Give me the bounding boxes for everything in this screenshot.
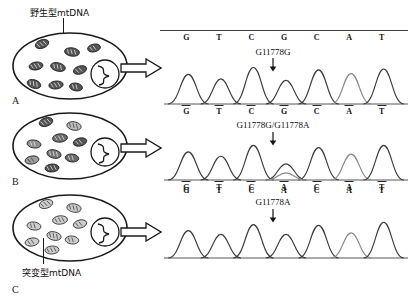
panel-a-top-rule — [160, 30, 408, 31]
trace-peak-t-6 — [364, 222, 404, 258]
panel-a-annotation: G11778G — [255, 47, 290, 57]
panel-a-top-sequence: GTCGCAT — [160, 33, 410, 45]
trace-peak-c-4 — [298, 70, 338, 104]
base-underbar — [280, 105, 289, 106]
base-call-c-4: C — [314, 33, 320, 42]
base-letter: G — [281, 33, 287, 42]
cell-c-membrane — [10, 192, 130, 264]
trace-secondary-peak-a-3 — [266, 173, 306, 180]
base-call-g-0: G — [183, 186, 189, 195]
base-call-t-1: T — [216, 33, 221, 42]
base-letter: C — [314, 33, 320, 42]
flow-arrow-c-icon — [120, 222, 162, 242]
wild-type-mtdna-label-text: 野生型mtDNA — [30, 8, 89, 18]
cell-label-b: B — [12, 176, 19, 187]
trace-peak-g-0 — [168, 152, 208, 180]
trace-peak-t-1 — [201, 156, 241, 180]
mtdna-heteroplasmy-figure: 野生型mtDNA — [0, 0, 413, 305]
base-call-t-6: T — [379, 186, 384, 195]
cell-label-c: C — [12, 284, 19, 295]
base-underbar — [345, 181, 354, 182]
base-letter: G — [183, 107, 189, 116]
base-call-t-1: T — [216, 186, 221, 195]
base-call-g-0: G — [183, 33, 189, 42]
base-call-t-6: T — [377, 105, 386, 116]
nucleus-b — [91, 138, 119, 166]
base-call-c-2: C — [247, 105, 256, 116]
nucleus-c — [91, 218, 119, 246]
panel-a-chromatogram — [162, 62, 410, 106]
trace-peak-c-4 — [298, 148, 338, 180]
base-underbar — [182, 105, 191, 106]
mutant-type-leader-line — [42, 238, 45, 264]
panel-c-chromatogram — [162, 216, 410, 260]
base-letter: C — [314, 107, 320, 116]
base-letter: T — [216, 33, 221, 42]
base-letter: T — [216, 186, 221, 195]
base-letter: C — [249, 186, 255, 195]
trace-peak-t-6 — [364, 69, 404, 104]
trace-peak-g-3 — [266, 80, 306, 104]
base-letter: A — [346, 186, 352, 195]
base-call-g-0: G — [182, 105, 191, 116]
trace-peak-a-5 — [331, 233, 371, 258]
trace-peak-g-0 — [168, 231, 208, 258]
trace-peak-a-5 — [331, 74, 371, 104]
base-underbar — [377, 181, 386, 182]
cell-b-diagram — [10, 110, 130, 182]
mutant-type-mtdna-label: 突变型mtDNA — [22, 266, 81, 279]
mutant-type-mtdna-label-text: 突变型mtDNA — [22, 268, 81, 278]
base-call-c-2: C — [249, 33, 255, 42]
base-call-g-3: G — [280, 105, 289, 116]
base-call-t-6: T — [379, 33, 384, 42]
wild-type-mtdna-label: 野生型mtDNA — [30, 6, 89, 19]
nucleus-a — [91, 60, 119, 88]
panel-c-top-sequence: GTCACAT — [160, 186, 410, 198]
trace-peak-c-4 — [298, 225, 338, 258]
base-underbar — [280, 181, 289, 182]
trace-peak-c-2 — [233, 225, 273, 258]
cell-c-diagram — [10, 192, 130, 264]
trace-peak-t-6 — [364, 145, 404, 180]
cell-a-membrane — [10, 30, 130, 102]
base-letter: A — [346, 33, 352, 42]
base-call-c-2: C — [249, 186, 255, 195]
panel-a-bottom-sequence: GTCGCAT — [160, 105, 410, 117]
base-underbar — [247, 181, 256, 182]
base-underbar — [247, 105, 256, 106]
base-letter: C — [249, 33, 255, 42]
base-underbar — [312, 105, 321, 106]
base-call-a-5: A — [346, 33, 352, 42]
base-letter: G — [281, 107, 287, 116]
panel-b-chromatogram — [162, 140, 410, 182]
base-call-g-3: G — [281, 33, 287, 42]
trace-peak-c-2 — [233, 145, 273, 180]
trace-peak-g-3 — [266, 164, 306, 180]
panel-b-annotation: G11778G/G11778A — [237, 120, 310, 130]
base-letter: C — [249, 107, 255, 116]
trace-peak-g-0 — [168, 74, 208, 104]
base-letter: T — [379, 107, 384, 116]
base-call-c-4: C — [312, 105, 321, 116]
trace-peak-t-1 — [201, 234, 241, 258]
base-letter: A — [281, 186, 287, 195]
base-call-a-5: A — [346, 186, 352, 195]
flow-arrow-b-icon — [120, 138, 162, 158]
base-letter: G — [183, 186, 189, 195]
base-call-a-3: A — [281, 186, 287, 195]
base-underbar — [377, 105, 386, 106]
base-letter: T — [216, 107, 221, 116]
panel-c-annotation: G11778A — [255, 197, 290, 207]
base-letter: T — [379, 186, 384, 195]
base-underbar — [214, 181, 223, 182]
cell-label-a: A — [12, 95, 19, 106]
base-letter: T — [379, 33, 384, 42]
trace-peak-c-2 — [233, 68, 273, 104]
trace-peak-a-3 — [266, 234, 306, 258]
base-call-t-1: T — [214, 105, 223, 116]
trace-peak-t-1 — [201, 79, 241, 104]
base-letter: A — [346, 107, 352, 116]
base-letter: G — [183, 33, 189, 42]
base-call-c-4: C — [314, 186, 320, 195]
base-underbar — [182, 181, 191, 182]
